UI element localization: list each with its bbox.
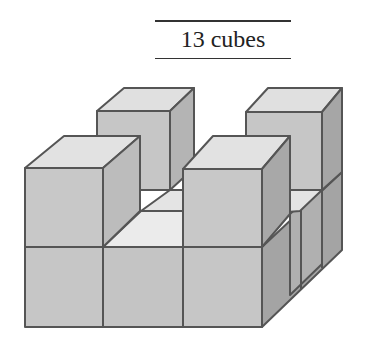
bottom-front-row [25,247,262,327]
cube-bottom-front-3 [183,247,262,327]
cube-stack-figure [0,0,369,347]
cube-bottom-front-2 [103,247,183,327]
cube-bottom-front-1 [25,247,103,327]
cube-top-front-right [183,136,290,247]
